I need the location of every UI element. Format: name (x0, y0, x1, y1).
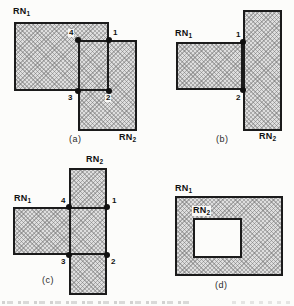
rn2-label-sub: 2 (272, 135, 276, 142)
panel-caption-c: (c) (42, 275, 54, 285)
rect-rn1-outline (13, 207, 107, 255)
point-label-3: 3 (67, 94, 73, 102)
corner-point-1 (104, 204, 110, 210)
rn2-label: RN2 (259, 132, 276, 142)
panel-c: 4 1 3 2 RN1 RN2 (c) (0, 153, 147, 306)
rn1-label-sub: 1 (27, 197, 31, 204)
point-label-4: 4 (68, 29, 74, 37)
rn2-label-base: RN (86, 154, 99, 164)
panel-b: 1 2 RN1 RN2 (b) (147, 0, 294, 153)
rn1-label-base: RN (13, 6, 26, 16)
point-label-1: 1 (235, 31, 241, 39)
corner-point-4 (75, 37, 81, 43)
rn2-label: RN2 (86, 155, 103, 165)
panel-caption-b: (b) (216, 134, 229, 144)
point-label-1: 1 (111, 197, 117, 205)
point-label-2: 2 (105, 94, 111, 102)
rn1-label: RN1 (14, 194, 31, 204)
rn2-label: RN2 (192, 206, 211, 216)
rn1-label-sub: 1 (188, 32, 192, 39)
rn2-label-sub: 2 (99, 158, 103, 165)
contact-point-2 (240, 87, 246, 93)
point-label-1: 1 (112, 29, 118, 37)
corner-point-1 (106, 37, 112, 43)
corner-point-4 (66, 204, 72, 210)
corner-point-3 (75, 88, 81, 94)
panel-a: 4 1 3 2 RN1 RN2 (a) (0, 0, 147, 153)
point-label-2: 2 (235, 94, 241, 102)
rn2-label-sub: 2 (132, 136, 136, 143)
rect-rn2-outline (243, 10, 282, 131)
rn2-label-base: RN (259, 131, 272, 141)
point-label-3: 3 (60, 258, 66, 266)
rn1-label-sub: 1 (188, 187, 192, 194)
contact-point-1 (240, 39, 246, 45)
corner-point-3 (66, 252, 72, 258)
rn1-label-base: RN (175, 183, 188, 193)
rn2-label: RN2 (119, 133, 136, 143)
rn1-label-base: RN (14, 193, 27, 203)
rect-rn2-inner (193, 218, 242, 258)
rn1-label-base: RN (175, 28, 188, 38)
rn1-label-sub: 1 (26, 10, 30, 17)
rn2-label-sub: 2 (206, 209, 210, 216)
rn1-label: RN1 (13, 7, 30, 17)
rn1-label: RN1 (175, 184, 192, 194)
figure-page: { "figure": { "panels": { "a": { "captio… (0, 0, 294, 306)
point-label-2: 2 (110, 258, 116, 266)
rn2-label-base: RN (193, 205, 206, 215)
point-label-4: 4 (60, 197, 66, 205)
panel-d: RN1 RN2 (d) (147, 153, 294, 306)
panel-caption-a: (a) (69, 134, 82, 144)
rect-rn2-outline (78, 40, 137, 131)
rect-rn1-outline (176, 42, 243, 90)
rn1-label: RN1 (175, 29, 192, 39)
rn2-label-base: RN (119, 132, 132, 142)
panel-caption-d: (d) (215, 280, 228, 290)
